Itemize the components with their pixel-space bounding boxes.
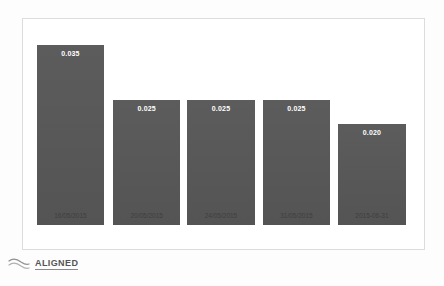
bar-value-label: 0.020 [338, 129, 405, 136]
bar-slot-1: 0.035 16/05/2015 [37, 19, 104, 225]
bar-value-label: 0.025 [263, 105, 330, 112]
logo-text-wrap: ALIGNED [35, 259, 78, 272]
bar[interactable]: 0.025 [113, 100, 180, 225]
bar[interactable]: 0.035 [37, 45, 104, 225]
bars-layer: 0.035 16/05/2015 0.025 20/05/2015 0.025 … [31, 19, 416, 249]
bar[interactable]: 0.025 [187, 100, 254, 225]
wave-swoosh-icon [8, 257, 30, 273]
bar-value-label: 0.025 [187, 105, 254, 112]
logo-wordmark: ALIGNED [35, 259, 78, 270]
bar[interactable]: 0.020 [338, 124, 405, 225]
bar-slot-3: 0.025 24/05/2015 [187, 19, 254, 225]
bar-value-label: 0.035 [37, 50, 104, 57]
bar-value-label: 0.025 [113, 105, 180, 112]
category-label: 2015-06-31 [326, 212, 417, 219]
bar-slot-2: 0.025 20/05/2015 [113, 19, 180, 225]
bar[interactable]: 0.025 [263, 100, 330, 225]
chart-frame: 0.035 16/05/2015 0.025 20/05/2015 0.025 … [22, 18, 425, 250]
plot-area: 0.035 16/05/2015 0.025 20/05/2015 0.025 … [23, 19, 424, 249]
bar-slot-4: 0.025 31/05/2015 [263, 19, 330, 225]
footer-logo: ALIGNED [8, 257, 78, 273]
bar-slot-5: 0.020 2015-06-31 [338, 19, 405, 225]
